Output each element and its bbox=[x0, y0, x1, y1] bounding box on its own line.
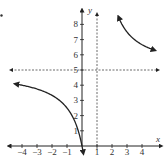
y-axis-label: y bbox=[87, 5, 92, 15]
left-branch-curve bbox=[16, 84, 83, 153]
x-tick-label: −4 bbox=[17, 147, 27, 157]
bullet-dot bbox=[0, 14, 2, 16]
x-tick-label: −2 bbox=[47, 147, 57, 157]
y-tick-label: 5 bbox=[74, 65, 79, 75]
x-tick-label: 2 bbox=[110, 147, 115, 157]
y-tick-label: 3 bbox=[74, 95, 79, 105]
x-tick-label: 3 bbox=[125, 147, 130, 157]
x-tick-label: 1 bbox=[95, 147, 100, 157]
y-tick-label: 4 bbox=[74, 80, 79, 90]
x-tick-label: −3 bbox=[32, 147, 42, 157]
graph: −4−3−2−1123412345678yx bbox=[0, 0, 167, 164]
y-tick-label: 8 bbox=[74, 19, 79, 29]
y-tick-label: 7 bbox=[74, 35, 79, 45]
x-axis-label: x bbox=[155, 134, 160, 144]
x-tick-label: 4 bbox=[140, 147, 145, 157]
y-tick-label: 6 bbox=[74, 50, 79, 60]
x-tick-label: −1 bbox=[62, 147, 72, 157]
right-branch-curve bbox=[119, 18, 154, 50]
